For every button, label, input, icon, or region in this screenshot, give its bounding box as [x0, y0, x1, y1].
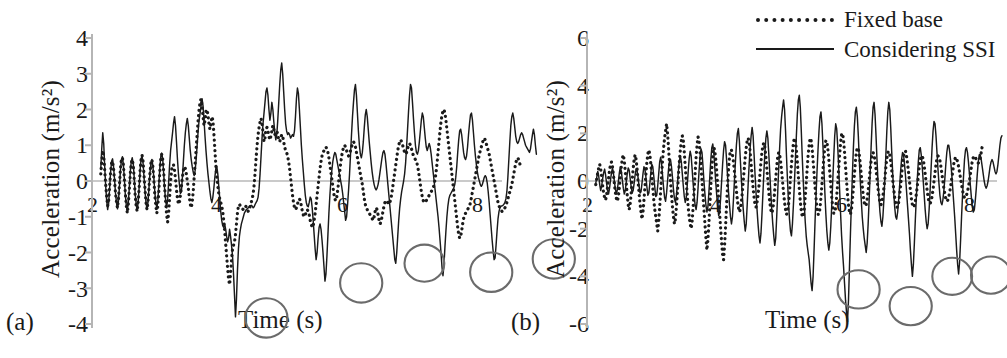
figure-acceleration-time-histories: Acceleration (m/s²) (a) Time (s) 4 3 2 1… — [0, 0, 1007, 358]
legend-solid-line-icon — [756, 42, 834, 56]
panel-a-plot-area — [0, 0, 503, 358]
legend: Fixed base Considering SSI — [756, 4, 1002, 64]
legend-entry-fixed-base: Fixed base — [756, 4, 1002, 34]
legend-label-considering-ssi: Considering SSI — [844, 38, 995, 61]
legend-entry-considering-ssi: Considering SSI — [756, 34, 1002, 64]
legend-label-fixed-base: Fixed base — [844, 8, 943, 31]
panel-a: Acceleration (m/s²) (a) Time (s) 4 3 2 1… — [0, 0, 503, 358]
legend-dotted-line-icon — [756, 12, 834, 26]
